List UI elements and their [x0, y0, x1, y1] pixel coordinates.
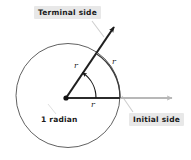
- initial-side-label: Initial side: [129, 113, 184, 126]
- radius-label-initial: r: [91, 101, 95, 109]
- terminal-side-leader-line: [92, 21, 104, 37]
- one-radian-label: 1 radian: [41, 116, 78, 124]
- radius-label-arc: r: [112, 58, 116, 66]
- angle-sweep-arc: [83, 73, 97, 98]
- terminal-side-label: Terminal side: [34, 6, 101, 19]
- one-radian-leader-line: [48, 104, 56, 114]
- figure-container: Terminal side Initial side 1 radian r r …: [0, 0, 191, 160]
- radius-label-terminal: r: [74, 62, 78, 70]
- vertex-point: [63, 95, 68, 100]
- angle-diagram-svg: [0, 0, 191, 160]
